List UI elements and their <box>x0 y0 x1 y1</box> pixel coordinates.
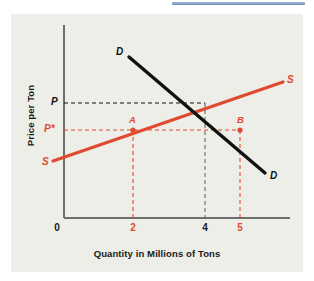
point-label-a: A <box>129 114 136 125</box>
chart-plot-surface: Price per Ton Quantity in Millions of To… <box>11 14 303 272</box>
chart-panel: Price per Ton Quantity in Millions of To… <box>11 14 303 272</box>
y-tick-label-p-star: P* <box>44 123 55 134</box>
data-point-a <box>130 127 135 132</box>
y-tick-label-p: P <box>51 96 58 107</box>
point-label-b: B <box>237 114 244 125</box>
top-divider-rule <box>172 2 305 5</box>
y-axis-title: Price per Ton <box>25 73 36 159</box>
figure-page: Price per Ton Quantity in Millions of To… <box>0 0 314 281</box>
x-tick-label-4: 4 <box>197 222 213 233</box>
origin-tick-label: 0 <box>49 222 65 233</box>
demand-curve-label-top: D <box>116 46 123 57</box>
demand-curve-label-bottom: D <box>270 170 277 181</box>
supply-curve-label-left: S <box>42 156 49 167</box>
x-tick-label-5: 5 <box>232 222 248 233</box>
chart-vector-layer <box>11 14 303 272</box>
supply-curve-label-right: S <box>287 74 294 85</box>
demand-curve <box>129 57 265 173</box>
data-point-b <box>237 127 242 132</box>
x-axis-title: Quantity in Millions of Tons <box>11 248 303 259</box>
x-tick-label-2: 2 <box>125 222 141 233</box>
supply-curve <box>53 82 283 161</box>
